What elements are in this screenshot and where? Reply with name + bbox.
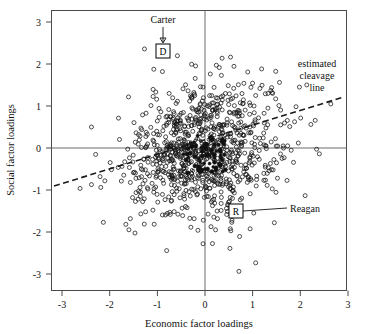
carter-arrow-icon bbox=[160, 27, 166, 43]
reagan-label: Reagan bbox=[290, 203, 320, 214]
x-axis-ticks bbox=[62, 291, 348, 297]
reagan-leader-line bbox=[243, 208, 287, 211]
carter-label: Carter bbox=[151, 14, 177, 25]
reagan-marker-letter: R bbox=[233, 207, 240, 217]
y-axis-title: Social factor loadings bbox=[5, 104, 16, 196]
y-tick-label--2: -2 bbox=[33, 227, 41, 238]
y-tick-label-2: 2 bbox=[36, 59, 41, 70]
x-tick-label--1: -1 bbox=[153, 299, 161, 310]
x-axis-title: Economic factor loadings bbox=[145, 318, 253, 329]
carter-marker-letter: D bbox=[160, 47, 167, 57]
cleavage-label-line3: line bbox=[310, 82, 326, 93]
x-tick-label-2: 2 bbox=[298, 299, 303, 310]
y-tick-label-3: 3 bbox=[36, 17, 41, 28]
y-axis-ticks bbox=[46, 22, 52, 274]
x-tick-label-0: 0 bbox=[203, 299, 208, 310]
x-tick-label--2: -2 bbox=[106, 299, 114, 310]
y-tick-label--3: -3 bbox=[33, 269, 41, 280]
plot-canvas: -3 -2 -1 0 1 2 3 3 2 1 0 -1 -2 -3 Econom… bbox=[0, 0, 368, 334]
y-tick-label-0: 0 bbox=[36, 143, 41, 154]
x-tick-label-1: 1 bbox=[250, 299, 255, 310]
cleavage-label-line1: estimated bbox=[298, 58, 336, 69]
scatter-plot-figure: -3 -2 -1 0 1 2 3 3 2 1 0 -1 -2 -3 Econom… bbox=[0, 0, 368, 334]
x-tick-label--3: -3 bbox=[58, 299, 66, 310]
y-tick-label-1: 1 bbox=[36, 101, 41, 112]
cleavage-label-line2: cleavage bbox=[300, 70, 336, 81]
x-tick-label-3: 3 bbox=[346, 299, 351, 310]
y-tick-label--1: -1 bbox=[33, 185, 41, 196]
